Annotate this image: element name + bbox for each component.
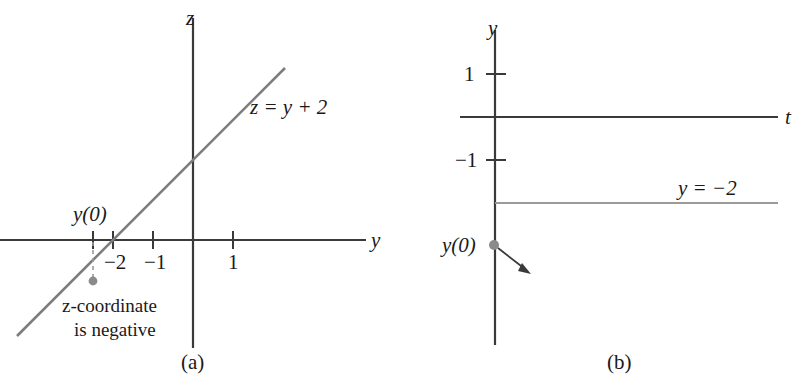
panel-a-init-point <box>89 277 98 286</box>
panel-a-annotation-line1: z-coordinate <box>62 296 157 315</box>
panel-b-y-axis-label: y <box>488 18 497 39</box>
panel-b-tick-label-neg1: −1 <box>455 150 477 171</box>
panel-a-curve-label: z = y + 2 <box>250 97 327 118</box>
panel-a-tick-label-neg1: −1 <box>144 252 166 273</box>
panel-b-solution-label: y = −2 <box>678 178 737 199</box>
panel-a-tick-label-pos1: 1 <box>228 252 239 273</box>
panel-b-caption: (b) <box>607 352 632 373</box>
panel-b-init-label: y(0) <box>442 235 476 256</box>
figure-root: y z −2 −1 1 y(0) z = y + 2 z-coordinate … <box>0 0 796 383</box>
panel-a-tick-label-neg2: −2 <box>104 252 126 273</box>
panel-b-tick-label-pos1: 1 <box>464 64 475 85</box>
panel-b-x-axis-label: t <box>785 107 791 128</box>
panel-a-annotation-line2: is negative <box>74 320 156 339</box>
panel-a-x-axis-label: y <box>371 230 380 251</box>
panel-b-direction-arrow <box>498 248 531 274</box>
panel-a: y z −2 −1 1 y(0) z = y + 2 z-coordinate … <box>0 0 400 383</box>
panel-b: t y 1 −1 y = −2 y(0) (b) <box>400 0 796 383</box>
panel-b-init-point <box>489 240 499 250</box>
panel-a-init-label: y(0) <box>73 204 107 225</box>
panel-a-y-axis-label: z <box>186 8 194 29</box>
panel-a-plot <box>0 0 400 383</box>
panel-a-caption: (a) <box>181 352 204 373</box>
